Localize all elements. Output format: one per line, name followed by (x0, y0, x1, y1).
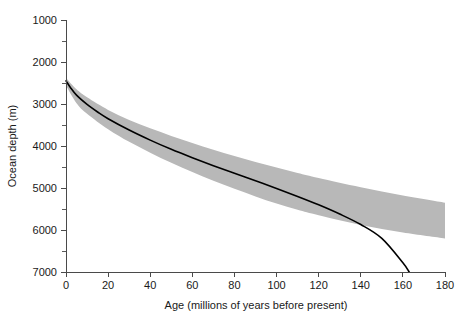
x-tick-label: 160 (394, 279, 412, 291)
y-tick-label: 5000 (33, 182, 57, 194)
y-axis-ticks: 1000200030004000500060007000 (33, 14, 66, 278)
chart-canvas: 1000200030004000500060007000 02040608010… (0, 0, 465, 321)
observed-depth-envelope-band (66, 78, 445, 238)
y-tick-label: 2000 (33, 56, 57, 68)
data-band-group (66, 78, 445, 238)
x-tick-label: 120 (309, 279, 327, 291)
ocean-depth-age-chart: 1000200030004000500060007000 02040608010… (0, 0, 465, 321)
y-tick-label: 1000 (33, 14, 57, 26)
y-axis-title: Ocean depth (m) (6, 105, 18, 188)
y-tick-label: 7000 (33, 266, 57, 278)
x-tick-label: 180 (436, 279, 454, 291)
y-tick-label: 4000 (33, 140, 57, 152)
axes-group (66, 20, 445, 272)
y-tick-label: 6000 (33, 224, 57, 236)
x-tick-label: 140 (352, 279, 370, 291)
y-tick-label: 3000 (33, 98, 57, 110)
x-axis-title: Age (millions of years before present) (165, 299, 348, 311)
x-tick-label: 20 (102, 279, 114, 291)
x-tick-label: 80 (228, 279, 240, 291)
x-tick-label: 60 (186, 279, 198, 291)
x-axis-ticks: 020406080100120140160180 (63, 272, 454, 291)
x-tick-label: 40 (144, 279, 156, 291)
x-tick-label: 100 (267, 279, 285, 291)
x-tick-label: 0 (63, 279, 69, 291)
